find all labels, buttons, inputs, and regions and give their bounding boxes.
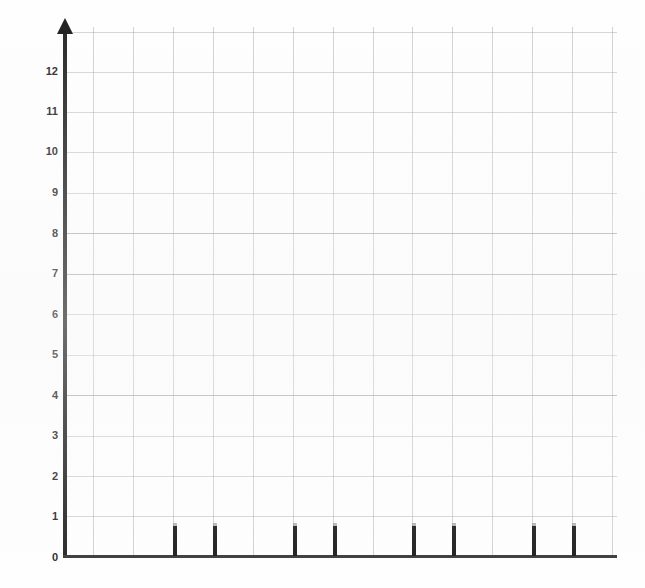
horizontal-gridline: [67, 274, 617, 275]
y-tick-3: 3: [20, 430, 58, 441]
bar-8: [572, 526, 576, 556]
y-tick-label: 0: [32, 552, 58, 563]
y-tick-label: 9: [32, 187, 58, 198]
bar-5: [412, 526, 416, 556]
y-tick-9: 9: [20, 187, 58, 198]
y-axis-arrow-icon: [57, 18, 73, 34]
y-tick-label: 4: [32, 390, 58, 401]
y-tick-label: 6: [32, 309, 58, 320]
horizontal-gridline: [67, 72, 617, 73]
horizontal-gridline: [67, 112, 617, 113]
vertical-gridline: [213, 27, 214, 557]
vertical-gridline: [253, 27, 254, 557]
horizontal-gridline: [67, 32, 617, 33]
bar-top-blur: [572, 523, 576, 526]
y-tick-label: 5: [32, 349, 58, 360]
y-tick-6: 6: [20, 309, 58, 320]
bar-3: [293, 526, 297, 556]
vertical-gridline: [492, 27, 493, 557]
horizontal-gridline: [67, 314, 617, 315]
bar-top-blur: [452, 523, 456, 526]
vertical-gridline: [452, 27, 453, 557]
bar-top-blur: [293, 523, 297, 526]
y-tick-label: 11: [32, 106, 58, 117]
y-tick-11: 11: [20, 106, 58, 117]
vertical-gridline: [133, 27, 134, 557]
y-tick-12: 12: [20, 66, 58, 77]
y-tick-label: 7: [32, 268, 58, 279]
vertical-gridline: [412, 27, 413, 557]
horizontal-gridline: [67, 152, 617, 153]
bar-top-blur: [333, 523, 337, 526]
y-tick-8: 8: [20, 228, 58, 239]
y-tick-2: 2: [20, 471, 58, 482]
vertical-gridline: [93, 27, 94, 557]
bar-6: [452, 526, 456, 556]
y-tick-label: 2: [32, 471, 58, 482]
horizontal-gridline: [67, 193, 617, 194]
y-tick-10: 10: [20, 146, 58, 157]
vertical-gridline: [373, 27, 374, 557]
bar-7: [532, 526, 536, 556]
horizontal-gridline: [67, 233, 617, 234]
bar-top-blur: [532, 523, 536, 526]
vertical-gridline: [612, 27, 613, 557]
bar-top-blur: [173, 523, 177, 526]
horizontal-gridline: [67, 395, 617, 396]
bar-chart-figure: 0 1 2 3 4 5 6 7 8 9 10 1: [0, 0, 645, 588]
y-axis-line: [63, 30, 67, 558]
plot-area: 0 1 2 3 4 5 6 7 8 9 10 1: [0, 0, 645, 588]
horizontal-gridline: [67, 436, 617, 437]
y-tick-label: 1: [32, 511, 58, 522]
y-tick-1: 1: [20, 511, 58, 522]
y-tick-4: 4: [20, 390, 58, 401]
y-tick-label: 10: [32, 146, 58, 157]
vertical-gridline: [173, 27, 174, 557]
vertical-gridline: [532, 27, 533, 557]
bar-4: [333, 526, 337, 556]
bar-top-blur: [213, 523, 217, 526]
horizontal-gridline: [67, 476, 617, 477]
y-tick-label: 8: [32, 228, 58, 239]
vertical-gridline: [293, 27, 294, 557]
bar-top-blur: [412, 523, 416, 526]
y-tick-label: 3: [32, 430, 58, 441]
y-tick-5: 5: [20, 349, 58, 360]
bar-1: [173, 526, 177, 556]
vertical-gridline: [333, 27, 334, 557]
horizontal-gridline: [67, 516, 617, 517]
bar-2: [213, 526, 217, 556]
y-tick-label: 12: [32, 66, 58, 77]
vertical-gridline: [572, 27, 573, 557]
y-tick-0: 0: [20, 552, 58, 563]
horizontal-gridline: [67, 355, 617, 356]
y-tick-7: 7: [20, 268, 58, 279]
